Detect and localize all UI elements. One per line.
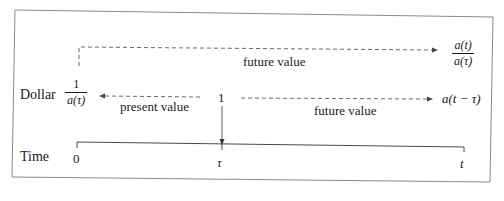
time-tick-t: t bbox=[460, 157, 464, 170]
time-tick-tau: τ bbox=[217, 156, 222, 169]
origin-value: 1 bbox=[218, 91, 225, 104]
dollar-row-label: Dollar bbox=[20, 88, 56, 102]
right-future-value-label: future value bbox=[314, 104, 376, 117]
time-row-label: Time bbox=[20, 150, 49, 164]
right-result: a(t − τ) bbox=[442, 92, 481, 105]
diagram-canvas: Dollar Time future value a(t) a(τ) 1 a(τ… bbox=[0, 0, 504, 201]
top-result-fraction: a(t) a(τ) bbox=[452, 39, 474, 67]
right-arrowhead bbox=[427, 97, 433, 102]
time-axis bbox=[77, 142, 464, 152]
present-value-fraction: 1 a(τ) bbox=[65, 78, 87, 106]
top-future-value-label: future value bbox=[243, 55, 305, 68]
present-value-label: present value bbox=[120, 100, 189, 113]
top-arrowhead bbox=[432, 48, 438, 53]
time-tick-0: 0 bbox=[73, 152, 80, 165]
left-arrowhead bbox=[99, 94, 105, 99]
